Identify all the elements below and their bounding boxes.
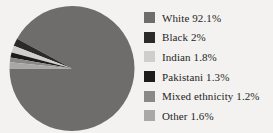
legend-color-swatch [144,71,155,82]
legend-item[interactable]: White 92.1% [144,8,273,28]
legend-item[interactable]: Other 1.6% [144,106,273,126]
pie-chart-figure: White 92.1%Black 2%Indian 1.8%Pakistani … [0,0,273,133]
pie-chart-graphic [9,4,135,133]
legend-item[interactable]: Indian 1.8% [144,47,273,67]
legend-item[interactable]: Black 2% [144,28,273,48]
legend-color-swatch [144,110,155,121]
legend-item-label: Other 1.6% [162,110,214,122]
legend-color-swatch [144,91,155,102]
legend-item-label: Black 2% [162,31,206,43]
legend-color-swatch [144,12,155,23]
chart-legend: White 92.1%Black 2%Indian 1.8%Pakistani … [144,8,273,128]
legend-item[interactable]: Pakistani 1.3% [144,67,273,87]
legend-item-label: White 92.1% [162,12,221,24]
legend-item[interactable]: Mixed ethnicity 1.2% [144,86,273,106]
legend-item-label: Pakistani 1.3% [162,71,229,83]
legend-color-swatch [144,32,155,43]
pie-slice-group [10,6,135,131]
legend-item-label: Mixed ethnicity 1.2% [162,90,260,102]
legend-item-label: Indian 1.8% [162,51,217,63]
pie-svg [9,4,135,133]
legend-color-swatch [144,51,155,62]
